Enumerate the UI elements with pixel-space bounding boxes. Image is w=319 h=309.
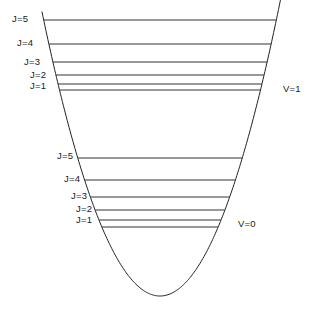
rotational-label-v1-j2: J=2	[30, 70, 46, 80]
rotational-label-v0-j3: J=3	[71, 191, 87, 201]
rotational-label-v0-j5: J=5	[57, 151, 73, 161]
rotational-label-v0-j1: J=1	[76, 215, 92, 225]
rotational-label-v1-j4: J=4	[17, 38, 33, 48]
rotational-label-v1-j5: J=5	[12, 14, 28, 24]
rotational-label-v1-j3: J=3	[24, 57, 40, 67]
potential-well-plot	[0, 0, 319, 309]
vibrational-label-v0: V=0	[238, 219, 256, 229]
rotational-label-v0-j2: J=2	[76, 204, 92, 214]
rotational-label-v1-j1: J=1	[30, 81, 46, 91]
energy-level-diagram: J=5J=4J=3J=2J=1V=1J=5J=4J=3J=2J=1V=0	[0, 0, 319, 309]
vibrational-label-v1: V=1	[283, 84, 301, 94]
rotational-label-v0-j4: J=4	[64, 174, 80, 184]
